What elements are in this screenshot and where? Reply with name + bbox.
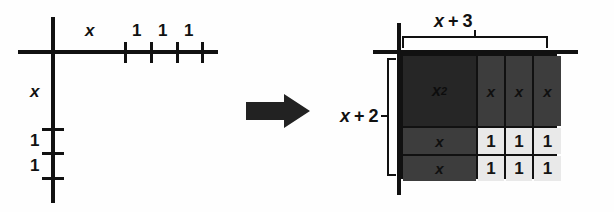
vertical-tick-1 [42, 128, 64, 131]
horizontal-segment-label-1a: 1 [132, 22, 141, 39]
left-dimension-bracket-nub [381, 115, 388, 117]
left-dimension-bracket [387, 58, 396, 176]
left-dimension-constant: 2 [369, 106, 379, 126]
horizontal-tick-3 [176, 42, 179, 63]
right-arrow-icon [246, 94, 316, 132]
horizontal-tick-2 [150, 42, 153, 63]
vertical-segment-label-1a: 1 [30, 132, 39, 149]
tile-x-top-2[interactable]: x [506, 56, 532, 126]
top-dimension-bracket [402, 36, 548, 48]
tile-label: 1 [486, 160, 495, 177]
horizontal-tick-4 [201, 42, 204, 63]
tile-x-left-1[interactable]: x [403, 128, 476, 154]
tile-unit-r1c3[interactable]: 1 [534, 128, 561, 154]
tile-label: 1 [514, 160, 523, 177]
left-dimension-variable: x [340, 106, 350, 126]
tile-unit-r2c2[interactable]: 1 [506, 156, 532, 181]
vertical-axis-left [51, 17, 55, 203]
tile-x-top-1[interactable]: x [478, 56, 504, 126]
vertical-segment-label-x: x [30, 83, 39, 100]
tile-x-left-2[interactable]: x [403, 156, 476, 181]
vertical-tick-3 [42, 177, 64, 180]
top-dimension-variable: x [434, 11, 444, 31]
top-dimension-constant: 3 [463, 11, 473, 31]
horizontal-axis-left [18, 50, 218, 54]
tile-x-squared-exponent: 2 [441, 86, 447, 97]
tile-unit-r2c3[interactable]: 1 [534, 156, 561, 181]
left-dimension-operator: + [354, 106, 365, 126]
tile-label: x [487, 84, 495, 99]
top-dimension-operator: + [448, 11, 459, 31]
figure-canvas: x 1 1 1 x 1 1 x+3 x+2 x2 x [0, 0, 614, 212]
top-dimension-label: x+3 [434, 12, 473, 30]
vertical-tick-2 [42, 152, 64, 155]
tile-label: x [543, 84, 551, 99]
tile-x-squared-base: x [432, 83, 441, 99]
horizontal-segment-label-1c: 1 [184, 22, 193, 39]
tile-unit-r2c1[interactable]: 1 [478, 156, 504, 181]
tile-x-top-3[interactable]: x [534, 56, 561, 126]
tile-label: x [435, 161, 443, 176]
right-area-model-diagram: x+3 x+2 x2 x x x x 1 1 1 x 1 1 1 [340, 0, 614, 212]
tile-label: 1 [514, 133, 523, 150]
horizontal-segment-label-1b: 1 [158, 22, 167, 39]
horizontal-tick-1 [124, 42, 127, 63]
tile-label: 1 [486, 133, 495, 150]
tile-label: 1 [543, 133, 552, 150]
left-number-line-diagram: x 1 1 1 x 1 1 [0, 0, 240, 212]
transition-arrow [246, 94, 316, 132]
tile-label: x [435, 134, 443, 149]
left-dimension-label: x+2 [340, 107, 379, 125]
horizontal-segment-label-x: x [85, 22, 94, 39]
top-dimension-bracket-nub [474, 30, 476, 37]
tile-unit-r1c2[interactable]: 1 [506, 128, 532, 154]
tile-label: 1 [543, 160, 552, 177]
tile-label: x [515, 84, 523, 99]
vertical-segment-label-1b: 1 [30, 157, 39, 174]
algebra-tile-grid: x2 x x x x 1 1 1 x 1 1 1 [401, 54, 557, 179]
tile-unit-r1c1[interactable]: 1 [478, 128, 504, 154]
tile-x-squared[interactable]: x2 [403, 56, 476, 126]
